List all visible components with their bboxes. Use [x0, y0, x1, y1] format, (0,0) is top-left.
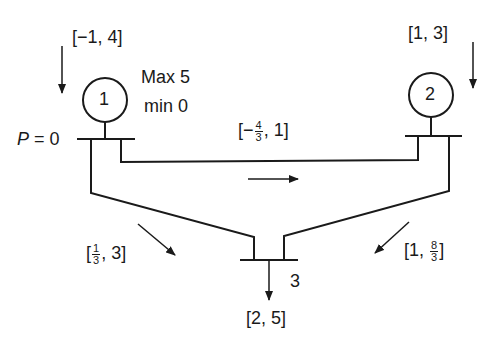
line-1-3 [91, 139, 254, 260]
bus-1-max-label: Max 5 [141, 68, 190, 86]
line-1-3-flow-arrow [138, 224, 175, 255]
line-1-2-flow-interval: [−43, 1] [238, 120, 289, 143]
fraction: 43 [255, 120, 263, 143]
bus-1-label: 1 [99, 90, 109, 108]
bus-3-label: 3 [290, 272, 300, 290]
bus-1-min-label: min 0 [144, 97, 188, 115]
bus-2-injection-interval: [1, 3] [408, 24, 448, 42]
price-symbol: P [17, 129, 29, 149]
bus-2-label: 2 [425, 85, 435, 103]
fraction: 13 [92, 243, 100, 266]
bus-1-injection-interval: [−1, 4] [72, 28, 123, 46]
bus-3-load-interval: [2, 5] [246, 309, 286, 327]
line-1-3-flow-interval: [13, 3] [86, 243, 126, 266]
line-2-3-flow-interval: [1, 83] [404, 240, 444, 263]
bus-1-price-label: P = 0 [17, 130, 60, 148]
fraction: 83 [430, 240, 438, 263]
network-diagram [0, 0, 490, 343]
